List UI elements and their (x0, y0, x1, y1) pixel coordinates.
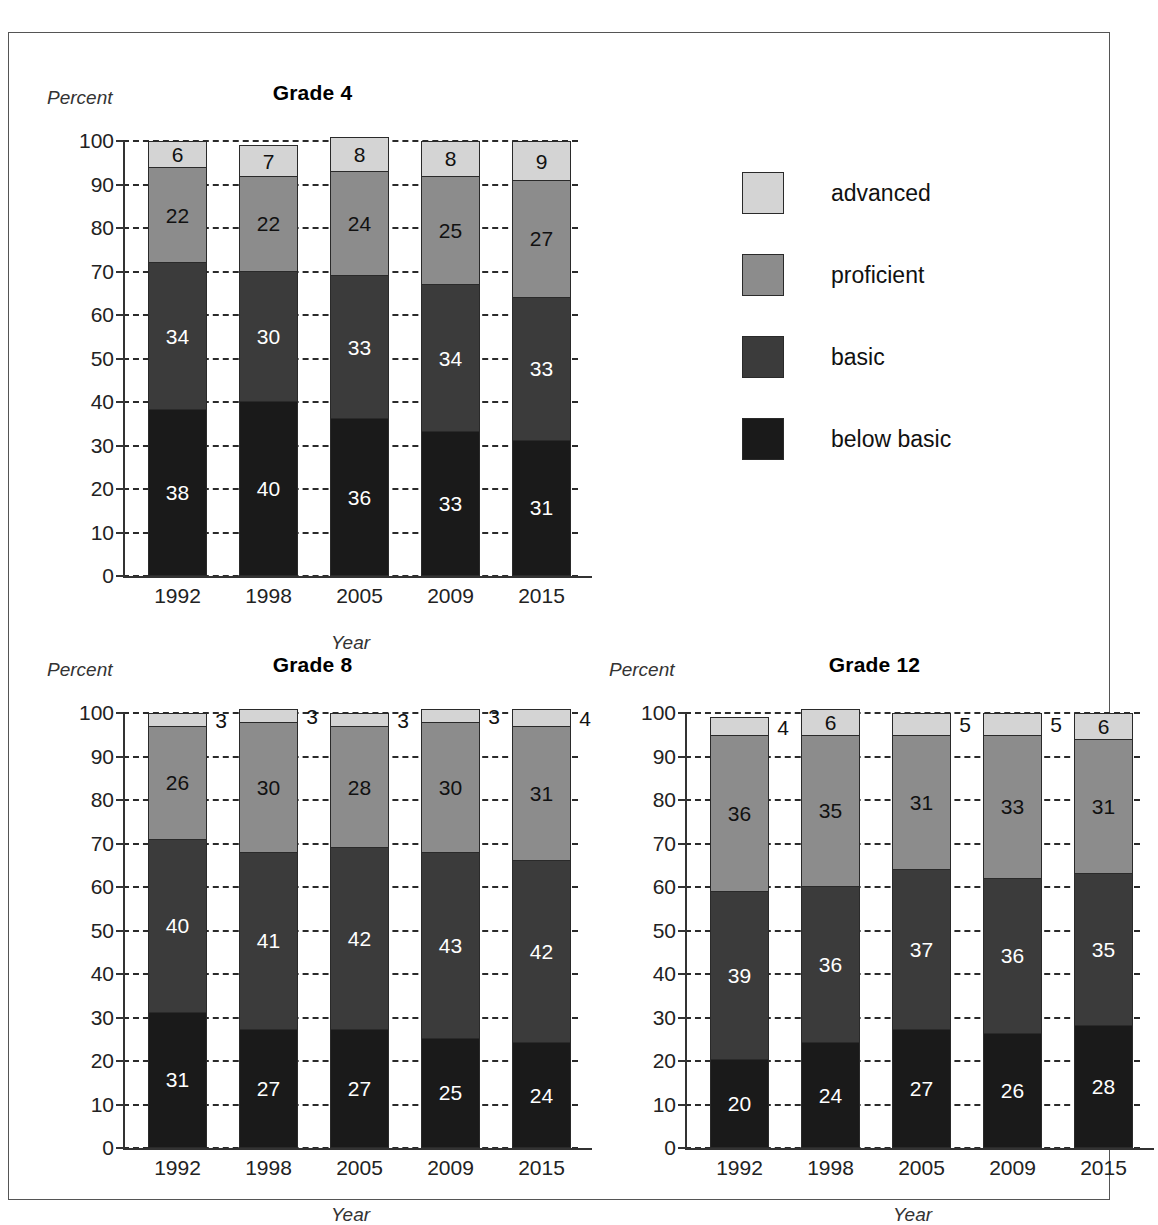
stacked-bar[interactable]: 3140263 (148, 713, 208, 1148)
x-axis-tick-label: 1998 (807, 1156, 854, 1180)
bar-segment-basic[interactable]: 33 (513, 298, 571, 441)
bar-segment-below-basic[interactable]: 26 (984, 1034, 1042, 1147)
bar-segment-below-basic[interactable]: 40 (240, 402, 298, 575)
bar-segment-basic[interactable]: 39 (711, 892, 769, 1061)
stacked-bar[interactable]: 2835316 (1074, 713, 1134, 1148)
stacked-bar[interactable]: 2039364 (710, 717, 770, 1148)
bar-segment-advanced[interactable]: 3 (240, 710, 298, 723)
bar-segment-value-label: 36 (819, 954, 842, 975)
stacked-bar[interactable]: 2741303 (239, 709, 299, 1148)
bar-segment-basic[interactable]: 30 (240, 272, 298, 402)
legend-swatch-icon (742, 418, 784, 460)
y-axis-tick-label: 40 (91, 962, 114, 986)
bar-segment-below-basic[interactable]: 27 (331, 1030, 389, 1147)
bar-segment-proficient[interactable]: 36 (711, 736, 769, 892)
bar-segment-below-basic[interactable]: 27 (893, 1030, 951, 1147)
legend-item-advanced[interactable]: advanced (742, 172, 951, 214)
bar-segment-below-basic[interactable]: 24 (513, 1043, 571, 1147)
legend-item-basic[interactable]: basic (742, 336, 951, 378)
bar-segment-proficient[interactable]: 30 (240, 723, 298, 853)
y-tick-mark (116, 1104, 123, 1106)
bar-segment-advanced[interactable]: 6 (802, 710, 860, 736)
legend-item-below-basic[interactable]: below basic (742, 418, 951, 460)
bar-segment-value-label: 42 (348, 928, 371, 949)
bar-segment-advanced[interactable]: 8 (331, 138, 389, 173)
bar-segment-advanced[interactable]: 3 (331, 714, 389, 727)
bar-segment-basic[interactable]: 42 (513, 861, 571, 1043)
stacked-bar[interactable]: 2737315 (892, 713, 952, 1148)
bar-segment-basic[interactable]: 41 (240, 853, 298, 1031)
chart-grade-4: Grade 4Percent01020304050607080901003834… (47, 81, 626, 666)
bar-segment-below-basic[interactable]: 27 (240, 1030, 298, 1147)
bar-segment-advanced[interactable]: 4 (513, 710, 571, 727)
bar-segment-advanced[interactable]: 5 (984, 714, 1042, 736)
x-axis-line (685, 1148, 1154, 1150)
bar-segment-proficient[interactable]: 31 (893, 736, 951, 870)
bar-segment-below-basic[interactable]: 38 (149, 410, 207, 575)
bar-segment-advanced[interactable]: 5 (893, 714, 951, 736)
bar-segment-proficient[interactable]: 22 (240, 177, 298, 272)
stacked-bar[interactable]: 2543303 (421, 709, 481, 1148)
bar-segment-below-basic[interactable]: 28 (1075, 1026, 1133, 1147)
bar-segment-basic[interactable]: 34 (422, 285, 480, 432)
bar-segment-basic[interactable]: 43 (422, 853, 480, 1039)
bar-segment-basic[interactable]: 33 (331, 276, 389, 419)
bar-segment-proficient[interactable]: 35 (802, 736, 860, 888)
bar-segment-advanced[interactable]: 7 (240, 146, 298, 176)
y-axis-tick-label: 60 (653, 875, 676, 899)
bar-segment-advanced[interactable]: 3 (422, 710, 480, 723)
bar-segment-basic[interactable]: 35 (1075, 874, 1133, 1026)
bar-segment-proficient[interactable]: 31 (1075, 740, 1133, 874)
bar-segment-advanced[interactable]: 8 (422, 142, 480, 177)
bar-segment-value-label: 22 (257, 213, 280, 234)
y-tick-mark (116, 930, 123, 932)
bar-segment-advanced[interactable]: 3 (149, 714, 207, 727)
bar-segment-below-basic[interactable]: 31 (149, 1013, 207, 1147)
bar-segment-advanced[interactable]: 4 (711, 718, 769, 735)
bar-segment-proficient[interactable]: 33 (984, 736, 1042, 879)
bar-segment-value-label: 4 (579, 707, 591, 728)
bar-segment-below-basic[interactable]: 33 (422, 432, 480, 575)
bar-segment-advanced[interactable]: 6 (149, 142, 207, 168)
bar-segment-advanced[interactable]: 9 (513, 142, 571, 181)
bar-segment-below-basic[interactable]: 36 (331, 419, 389, 575)
bar-segment-basic[interactable]: 37 (893, 870, 951, 1030)
y-axis-tick-label: 100 (641, 701, 676, 725)
bar-segment-below-basic[interactable]: 24 (802, 1043, 860, 1147)
bar-segment-proficient[interactable]: 31 (513, 727, 571, 861)
y-tick-mark (116, 140, 123, 142)
stacked-bar[interactable]: 3834226 (148, 141, 208, 576)
stacked-bar[interactable]: 2742283 (330, 713, 390, 1148)
bar-segment-proficient[interactable]: 22 (149, 168, 207, 263)
bar-segment-value-label: 28 (1092, 1076, 1115, 1097)
legend-item-proficient[interactable]: proficient (742, 254, 951, 296)
y-tick-mark (116, 1147, 123, 1149)
bar-segment-proficient[interactable]: 24 (331, 172, 389, 276)
stacked-bar[interactable]: 3633248 (330, 137, 390, 576)
y-axis-tick-label: 40 (91, 390, 114, 414)
stacked-bar[interactable]: 3133279 (512, 141, 572, 576)
bar-segment-basic[interactable]: 36 (984, 879, 1042, 1035)
bar-segment-proficient[interactable]: 30 (422, 723, 480, 853)
bar-segment-basic[interactable]: 34 (149, 263, 207, 410)
bar-segment-below-basic[interactable]: 25 (422, 1039, 480, 1147)
bar-segment-advanced[interactable]: 6 (1075, 714, 1133, 740)
stacked-bar[interactable]: 3334258 (421, 141, 481, 576)
stacked-bar[interactable]: 4030227 (239, 145, 299, 576)
x-axis-tick-label: 2005 (898, 1156, 945, 1180)
bar-segment-basic[interactable]: 40 (149, 840, 207, 1013)
bar-segment-value-label: 31 (910, 792, 933, 813)
stacked-bar[interactable]: 2636335 (983, 713, 1043, 1148)
bar-segment-proficient[interactable]: 25 (422, 177, 480, 285)
bar-segment-proficient[interactable]: 26 (149, 727, 207, 840)
bar-segment-basic[interactable]: 36 (802, 887, 860, 1043)
y-axis-tick-label: 70 (91, 831, 114, 855)
bar-segment-below-basic[interactable]: 31 (513, 441, 571, 575)
bar-segment-proficient[interactable]: 27 (513, 181, 571, 298)
bar-segment-below-basic[interactable]: 20 (711, 1060, 769, 1147)
bar-segment-basic[interactable]: 42 (331, 848, 389, 1030)
bar-segment-proficient[interactable]: 28 (331, 727, 389, 848)
stacked-bar[interactable]: 2442314 (512, 709, 572, 1148)
bar-segment-value-label: 33 (348, 337, 371, 358)
stacked-bar[interactable]: 2436356 (801, 709, 861, 1148)
